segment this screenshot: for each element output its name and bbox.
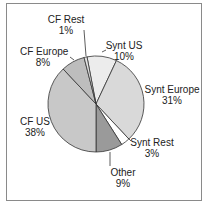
label-synt-europe: Synt Europe 31% <box>144 84 200 106</box>
label-other-pct: 9% <box>108 178 138 189</box>
label-other-name: Other <box>108 167 138 178</box>
label-cf-rest-name: CF Rest <box>46 14 86 25</box>
label-synt-rest-name: Synt Rest <box>130 137 174 148</box>
label-other: Other 9% <box>108 167 138 189</box>
label-cf-europe-name: CF Europe <box>20 46 66 57</box>
label-cf-europe: CF Europe 8% <box>20 46 66 68</box>
label-cf-rest-pct: 1% <box>46 25 86 36</box>
label-synt-rest-pct: 3% <box>130 148 174 159</box>
label-synt-us: Synt US 10% <box>104 40 144 62</box>
label-cf-rest: CF Rest 1% <box>46 14 86 36</box>
label-cf-us: CF US 38% <box>20 116 50 138</box>
label-synt-us-pct: 10% <box>104 51 144 62</box>
label-synt-europe-pct: 31% <box>144 95 200 106</box>
label-synt-europe-name: Synt Europe <box>144 84 200 95</box>
label-cf-europe-pct: 8% <box>20 57 66 68</box>
label-synt-rest: Synt Rest 3% <box>130 137 174 159</box>
leader-line <box>70 57 74 60</box>
label-cf-us-name: CF US <box>20 116 50 127</box>
label-cf-us-pct: 38% <box>20 127 50 138</box>
label-synt-us-name: Synt US <box>104 40 144 51</box>
